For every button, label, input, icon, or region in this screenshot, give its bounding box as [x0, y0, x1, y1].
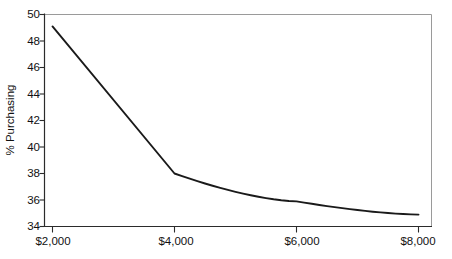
y-axis-ticks — [40, 15, 45, 227]
data-series-line — [53, 26, 419, 214]
line-chart: % Purchasing 50 48 46 44 42 40 38 36 34 … — [0, 0, 452, 259]
plot-area — [0, 0, 452, 259]
x-axis-ticks — [53, 227, 419, 233]
